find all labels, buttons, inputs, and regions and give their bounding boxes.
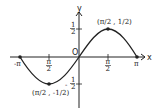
tick-pi: π (134, 60, 139, 68)
max-point-label: (π/2 , 1/2) (97, 18, 132, 26)
tick-neg-pi: -π (14, 60, 21, 68)
point-pi (135, 55, 139, 59)
tick-y-half-den: 2 (71, 28, 75, 36)
tick-half-pi-den: 2 (106, 65, 110, 73)
min-point-label: (π/2 , -1/2) (32, 89, 69, 97)
tick-y-neg-half-sign: - (65, 81, 68, 89)
point-min (47, 82, 51, 86)
x-axis-label: x (147, 53, 152, 62)
tick-neg-half-pi-den: 2 (47, 65, 51, 73)
origin-label: O (72, 48, 78, 57)
point-neg-pi (18, 55, 22, 59)
tick-y-neg-half-den: 2 (71, 83, 75, 91)
point-max (106, 27, 110, 31)
sine-graph: y x O -π π 2 π 2 π 1 2 - 1 2 (π/2 , 1/2)… (0, 0, 163, 112)
y-axis-label: y (77, 4, 82, 13)
